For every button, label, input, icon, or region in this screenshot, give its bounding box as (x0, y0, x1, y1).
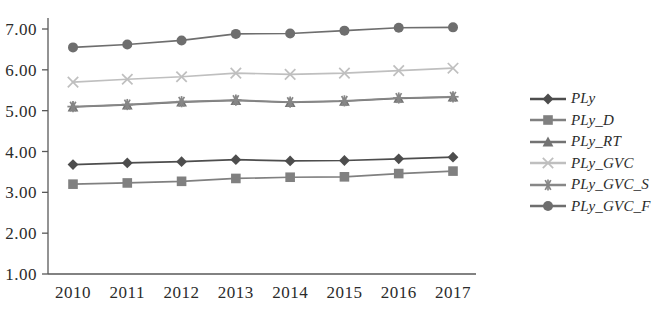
data-series-group (67, 22, 458, 189)
legend-marker-diamond-icon (528, 89, 568, 109)
data-point-marker (177, 177, 187, 187)
data-point-marker (448, 166, 458, 176)
y-tick-label: 5.00 (5, 102, 37, 121)
data-point-marker (448, 152, 459, 163)
data-point-marker (543, 93, 554, 104)
legend-marker-asterisk-icon (528, 175, 568, 195)
legend-item-ply_gvc[interactable]: PLy_GVC (528, 153, 670, 175)
y-tick-label: 1.00 (5, 265, 37, 284)
data-point-marker (231, 29, 241, 39)
chart-legend: PLyPLy_DPLy_RTPLy_GVCPLy_GVC_SPLy_GVC_F (528, 88, 670, 217)
data-point-marker (543, 201, 553, 211)
legend-label: PLy (571, 90, 595, 107)
y-tick-label: 2.00 (5, 224, 37, 243)
legend-label: PLy_GVC_F (571, 198, 651, 215)
x-tick-label: 2013 (218, 283, 254, 302)
legend-marker-square-icon (528, 110, 568, 130)
x-tick-label: 2010 (55, 283, 91, 302)
series-ply_d (68, 166, 458, 189)
legend-marker-circle-icon (528, 196, 568, 216)
data-point-marker (393, 153, 404, 164)
data-point-marker (68, 179, 78, 189)
data-point-marker (394, 23, 404, 33)
data-point-marker (231, 174, 241, 184)
series-line (73, 68, 453, 82)
data-point-marker (122, 158, 133, 169)
legend-label: PLy_RT (571, 133, 621, 150)
data-point-marker (448, 22, 458, 32)
data-point-marker (340, 172, 350, 182)
y-axis-labels: 1.002.003.004.005.006.007.00 (5, 20, 37, 284)
data-point-marker (285, 155, 296, 166)
x-tick-label: 2017 (435, 283, 471, 302)
x-axis-labels: 20102011201220132014201520162017 (55, 283, 471, 302)
legend-item-ply_gvc_s[interactable]: PLy_GVC_S (528, 174, 670, 196)
legend-marker-cross-icon (528, 153, 568, 173)
y-tick-label: 6.00 (5, 61, 37, 80)
y-axis-ticks (42, 29, 48, 274)
series-ply_gvc (68, 63, 458, 87)
legend-item-ply_gvc_f[interactable]: PLy_GVC_F (528, 196, 670, 218)
data-point-marker (542, 179, 553, 190)
data-point-marker (394, 169, 404, 179)
data-point-marker (543, 115, 553, 125)
x-tick-label: 2015 (326, 283, 362, 302)
x-tick-label: 2012 (164, 283, 200, 302)
data-point-marker (176, 156, 187, 167)
data-point-marker (68, 42, 78, 52)
series-ply_gvc_f (68, 22, 458, 52)
data-point-marker (177, 35, 187, 45)
data-point-marker (68, 159, 79, 170)
data-point-marker (339, 155, 350, 166)
y-tick-label: 7.00 (5, 20, 37, 39)
data-point-marker (122, 178, 132, 188)
legend-item-ply_rt[interactable]: PLy_RT (528, 131, 670, 153)
chart-figure: 1.002.003.004.005.006.007.00 20102011201… (0, 0, 670, 310)
x-tick-label: 2014 (272, 283, 308, 302)
data-point-marker (285, 172, 295, 182)
data-point-marker (230, 154, 241, 165)
x-tick-label: 2011 (110, 283, 145, 302)
legend-item-ply[interactable]: PLy (528, 88, 670, 110)
data-point-marker (285, 28, 295, 38)
legend-label: PLy_D (571, 112, 614, 129)
legend-label: PLy_GVC_S (571, 176, 649, 193)
series-ply (68, 152, 459, 170)
x-tick-label: 2016 (381, 283, 417, 302)
legend-item-ply_d[interactable]: PLy_D (528, 110, 670, 132)
axis-lines (48, 18, 476, 274)
legend-marker-triangle-icon (528, 132, 568, 152)
y-tick-label: 4.00 (5, 143, 37, 162)
legend-label: PLy_GVC (571, 155, 634, 172)
data-point-marker (339, 26, 349, 36)
data-point-marker (122, 40, 132, 50)
y-tick-label: 3.00 (5, 183, 37, 202)
